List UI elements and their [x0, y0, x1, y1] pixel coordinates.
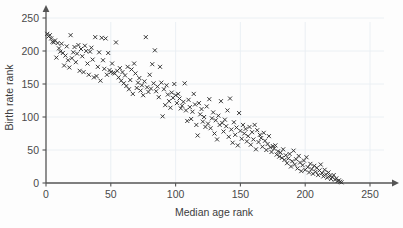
data-point-marker	[223, 118, 227, 122]
data-point-marker	[150, 62, 154, 66]
data-point-marker	[219, 99, 223, 103]
y-axis-arrow-icon	[43, 5, 50, 12]
x-tick-label: 0	[43, 188, 49, 200]
data-point-marker	[127, 87, 131, 91]
data-point-marker	[155, 85, 159, 89]
data-point-marker	[158, 65, 162, 69]
data-point-marker	[281, 147, 285, 151]
data-point-marker	[82, 70, 86, 74]
data-point-marker	[222, 130, 226, 134]
data-point-marker	[114, 40, 118, 44]
data-point-marker	[128, 78, 132, 82]
data-point-marker	[118, 66, 122, 70]
data-point-marker	[245, 139, 249, 143]
data-point-marker	[79, 47, 83, 51]
data-point-marker	[282, 158, 286, 162]
data-point-marker	[120, 70, 124, 74]
data-point-marker	[205, 104, 209, 108]
data-point-marker	[145, 85, 149, 89]
data-point-marker	[270, 150, 274, 154]
data-point-marker	[266, 142, 270, 146]
data-point-marker	[285, 161, 289, 165]
data-point-marker	[308, 162, 312, 166]
data-point-marker	[163, 103, 167, 107]
data-point-marker	[74, 60, 78, 64]
data-point-marker	[288, 152, 292, 156]
data-point-marker	[123, 73, 127, 77]
data-point-marker	[83, 44, 87, 48]
data-point-marker	[232, 120, 236, 124]
data-point-marker	[170, 91, 174, 95]
y-tick-label: 100	[21, 111, 39, 123]
data-point-marker	[201, 120, 205, 124]
data-point-marker	[297, 154, 301, 158]
tick-labels-group: 050100150200250050100150200250	[21, 12, 378, 200]
data-point-marker	[133, 71, 137, 75]
data-point-marker	[56, 41, 60, 45]
data-point-marker	[190, 110, 194, 114]
data-point-marker	[225, 108, 229, 112]
data-point-marker	[101, 58, 105, 62]
data-point-marker	[307, 170, 311, 174]
data-point-marker	[255, 128, 259, 132]
plot-svg: 050100150200250050100150200250 Median ag…	[0, 0, 403, 228]
data-point-marker	[93, 35, 97, 39]
data-point-marker	[161, 114, 165, 118]
data-point-marker	[153, 48, 157, 52]
scatter-chart-figure: 050100150200250050100150200250 Median ag…	[0, 0, 403, 228]
data-point-marker	[67, 66, 71, 70]
data-point-marker	[117, 75, 121, 79]
x-tick-label: 250	[361, 188, 379, 200]
data-point-marker	[144, 35, 148, 39]
data-point-marker	[185, 119, 189, 123]
data-point-marker	[132, 62, 136, 66]
data-point-marker	[168, 106, 172, 110]
data-point-marker	[70, 56, 74, 60]
data-point-marker	[212, 132, 216, 136]
y-tick-label: 200	[21, 45, 39, 57]
data-point-marker	[310, 167, 314, 171]
data-points-group	[45, 32, 343, 185]
y-tick-label: 250	[21, 12, 39, 24]
data-point-marker	[166, 93, 170, 97]
data-point-marker	[220, 121, 224, 125]
data-point-marker	[306, 165, 310, 169]
data-point-marker	[235, 126, 239, 130]
data-point-marker	[242, 132, 246, 136]
data-point-marker	[167, 99, 171, 103]
data-point-marker	[253, 123, 257, 127]
data-point-marker	[227, 135, 231, 139]
data-point-marker	[250, 130, 254, 134]
data-point-marker	[85, 62, 89, 66]
data-point-marker	[247, 125, 251, 129]
data-point-marker	[126, 65, 130, 69]
data-point-marker	[207, 97, 211, 101]
y-tick-label: 150	[21, 78, 39, 90]
data-point-marker	[78, 69, 82, 73]
tick-marks-group	[43, 18, 371, 187]
data-point-marker	[197, 101, 201, 105]
data-point-marker	[54, 56, 58, 60]
data-point-marker	[294, 157, 298, 161]
data-point-marker	[241, 123, 245, 127]
data-point-marker	[314, 170, 318, 174]
data-point-marker	[131, 92, 135, 96]
data-point-marker	[188, 105, 192, 109]
data-point-marker	[192, 92, 196, 96]
data-point-marker	[73, 45, 77, 49]
data-point-marker	[100, 36, 104, 40]
data-point-marker	[286, 157, 290, 161]
axes-group	[43, 5, 399, 186]
data-point-marker	[215, 137, 219, 141]
data-point-marker	[91, 58, 95, 62]
data-point-marker	[76, 43, 80, 47]
data-point-marker	[301, 163, 305, 167]
data-point-marker	[96, 65, 100, 69]
data-point-marker	[246, 134, 250, 138]
data-point-marker	[194, 123, 198, 127]
x-tick-label: 100	[167, 188, 185, 200]
data-point-marker	[75, 52, 79, 56]
data-point-marker	[263, 139, 267, 143]
data-point-marker	[200, 107, 204, 111]
data-point-marker	[104, 36, 108, 40]
